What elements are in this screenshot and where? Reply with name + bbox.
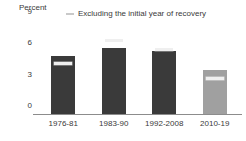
y-tick-label-0: 0 <box>28 101 32 110</box>
excluding-marker <box>206 77 224 80</box>
x-axis-baseline <box>33 114 242 115</box>
bar-group: 1976-81 <box>38 20 89 114</box>
y-tick-label-9: 9 <box>28 7 32 16</box>
bar-group: 2010-19 <box>190 20 241 114</box>
bar <box>152 51 176 114</box>
y-tick-label-6: 6 <box>28 38 32 47</box>
x-tick-label: 1983-90 <box>99 119 128 128</box>
bar <box>102 48 126 114</box>
bar-group: 1992-2008 <box>139 20 190 114</box>
line-marker-icon <box>66 13 74 15</box>
excluding-marker <box>54 62 72 65</box>
bar-group: 1983-90 <box>89 20 140 114</box>
chart-legend: Excluding the initial year of recovery <box>66 9 206 18</box>
legend-entry-label: Excluding the initial year of recovery <box>78 9 206 18</box>
x-tick-label: 1976-81 <box>49 119 78 128</box>
plot-area: 9 6 3 0 1976-81 1983-90 1992-2008 2010-1… <box>38 20 240 114</box>
x-tick-label: 2010-19 <box>200 119 229 128</box>
y-axis-title: Percent <box>19 3 47 12</box>
x-tick-label: 1992-2008 <box>145 119 183 128</box>
y-tick-label-3: 3 <box>28 69 32 78</box>
chart-figure: Percent Excluding the initial year of re… <box>0 0 246 141</box>
excluding-marker <box>105 39 123 42</box>
excluding-marker <box>155 48 173 51</box>
